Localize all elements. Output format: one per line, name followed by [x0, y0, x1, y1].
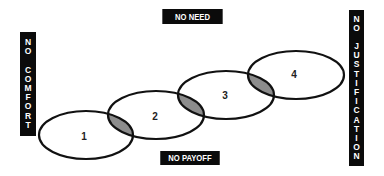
- stages-diagram: 1 2 3 4: [0, 0, 384, 176]
- stage-1-label: 1: [81, 131, 87, 142]
- stage-3-label: 3: [222, 90, 228, 101]
- stage-4-label: 4: [291, 69, 297, 80]
- stage-2-label: 2: [152, 111, 158, 122]
